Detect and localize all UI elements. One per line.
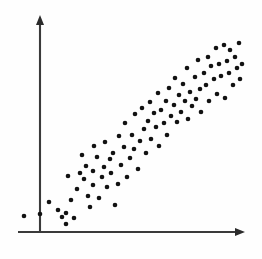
data-point	[82, 177, 87, 182]
data-point	[117, 134, 122, 139]
data-point	[142, 127, 147, 132]
data-point	[119, 163, 124, 168]
data-point	[91, 169, 96, 174]
data-point	[100, 175, 105, 180]
data-point	[209, 64, 214, 69]
data-point	[132, 147, 137, 152]
data-point	[215, 92, 220, 97]
data-point	[102, 165, 107, 170]
data-point	[219, 74, 224, 79]
data-point	[214, 46, 219, 51]
data-point	[223, 96, 228, 101]
data-point	[193, 75, 198, 80]
data-point	[152, 111, 157, 116]
data-point	[125, 175, 130, 180]
data-point	[103, 140, 108, 145]
data-point	[66, 174, 71, 179]
data-point	[144, 151, 149, 156]
data-point	[97, 196, 102, 201]
data-point	[183, 99, 188, 104]
data-point	[109, 171, 114, 176]
data-point	[108, 157, 113, 162]
data-point	[179, 110, 184, 115]
data-point	[149, 137, 154, 142]
data-point	[164, 99, 169, 104]
data-point	[225, 59, 230, 64]
data-point	[238, 77, 243, 82]
data-point	[78, 171, 83, 176]
data-point	[186, 117, 191, 122]
data-point	[133, 112, 138, 117]
vertical-axis-arrowhead	[36, 15, 44, 25]
data-point	[122, 145, 127, 150]
data-point	[177, 93, 182, 98]
data-point	[38, 212, 43, 217]
data-point	[128, 156, 133, 161]
horizontal-axis-arrowhead	[235, 228, 245, 236]
data-point	[190, 104, 195, 109]
data-point	[148, 100, 153, 105]
data-point	[217, 62, 222, 67]
data-point	[60, 215, 65, 220]
data-point	[69, 198, 74, 203]
data-point	[157, 144, 162, 149]
data-point	[202, 71, 207, 76]
data-point	[64, 211, 69, 216]
data-point	[196, 58, 201, 63]
data-point	[80, 153, 85, 158]
data-point	[175, 120, 180, 125]
data-point	[113, 203, 118, 208]
data-point	[212, 77, 217, 82]
data-point	[72, 216, 77, 221]
data-point	[227, 71, 232, 76]
data-point	[64, 222, 69, 227]
data-point	[95, 155, 100, 160]
data-point	[146, 119, 151, 124]
data-point	[228, 48, 233, 53]
data-point	[47, 200, 52, 205]
data-point	[172, 103, 177, 108]
data-point	[138, 139, 143, 144]
data-point	[136, 167, 141, 172]
data-point	[240, 62, 245, 67]
data-point	[111, 151, 116, 156]
data-point	[140, 106, 145, 111]
data-point	[84, 164, 89, 169]
data-point	[159, 108, 164, 113]
data-point	[123, 121, 128, 126]
data-point	[88, 205, 93, 210]
data-point	[22, 214, 27, 219]
data-point	[105, 185, 110, 190]
axes-group	[18, 15, 245, 236]
data-point	[199, 110, 204, 115]
data-point	[130, 133, 135, 138]
data-point	[75, 187, 80, 192]
data-point	[188, 90, 193, 95]
data-point	[235, 66, 240, 71]
data-point	[167, 86, 172, 91]
data-point	[169, 114, 174, 119]
data-point	[181, 82, 186, 87]
data-point	[206, 55, 211, 60]
data-point	[231, 83, 236, 88]
data-point	[198, 87, 203, 92]
data-point	[92, 144, 97, 149]
data-point	[222, 43, 227, 48]
data-point	[204, 83, 209, 88]
data-point	[165, 133, 170, 138]
data-point	[233, 55, 238, 60]
data-points-group	[22, 41, 245, 227]
data-point	[56, 208, 61, 213]
data-point	[185, 66, 190, 71]
data-point	[162, 121, 167, 126]
data-point	[173, 76, 178, 81]
data-point	[237, 41, 242, 46]
plot-canvas	[0, 0, 262, 259]
data-point	[91, 183, 96, 188]
data-point	[86, 194, 91, 199]
data-point	[154, 125, 159, 130]
data-point	[194, 97, 199, 102]
scatter-plot-figure	[0, 0, 262, 259]
data-point	[207, 99, 212, 104]
data-point	[156, 91, 161, 96]
